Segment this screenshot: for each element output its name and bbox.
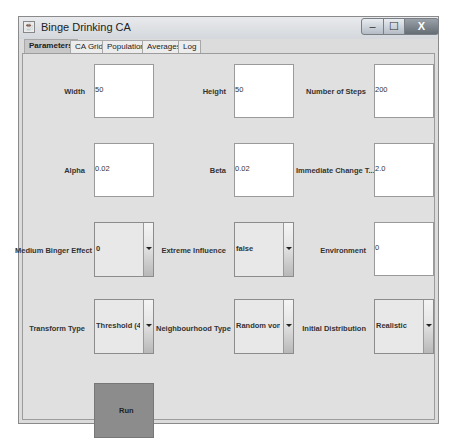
close-button[interactable]: X xyxy=(404,18,439,35)
environment-input[interactable]: 0 xyxy=(374,222,434,276)
beta-value: 0.02 xyxy=(235,164,250,173)
transform-type-label: Transform Type xyxy=(15,324,85,333)
environment-value: 0 xyxy=(375,243,379,252)
chevron-down-icon xyxy=(146,247,152,250)
tab-log[interactable]: Log xyxy=(178,40,201,53)
neighbourhood-type-combo[interactable]: Random von Ne... xyxy=(234,299,294,354)
chevron-down-icon xyxy=(426,324,432,327)
medium-binger-dropdown-button[interactable] xyxy=(143,223,153,276)
immediate-change-value: 2.0 xyxy=(375,164,385,173)
initial-distribution-combo[interactable]: Realistic xyxy=(374,299,434,354)
neighbourhood-type-dropdown-button[interactable] xyxy=(283,300,293,353)
neighbourhood-type-label: Neighbourhood Type xyxy=(156,324,226,333)
chevron-down-icon xyxy=(286,324,292,327)
steps-value: 200 xyxy=(375,85,388,94)
alpha-label: Alpha xyxy=(15,166,85,175)
extreme-influence-value: false xyxy=(236,244,280,253)
minimize-button[interactable]: ‒ xyxy=(361,18,384,35)
run-button-label: Run xyxy=(119,406,134,415)
initial-distribution-label: Initial Distribution xyxy=(296,324,366,333)
height-input[interactable]: 50 xyxy=(234,64,294,118)
height-value: 50 xyxy=(235,85,243,94)
transform-type-combo[interactable]: Threshold (4) xyxy=(94,299,154,354)
transform-type-dropdown-button[interactable] xyxy=(143,300,153,353)
environment-label: Environment xyxy=(296,246,366,255)
extreme-influence-combo[interactable]: false xyxy=(234,222,294,277)
maximize-button[interactable]: ☐ xyxy=(383,18,405,35)
neighbourhood-type-value: Random von Ne... xyxy=(236,321,280,330)
title-bar[interactable]: ☕ Binge Drinking CA ‒ ☐ X xyxy=(19,17,438,39)
steps-label: Number of Steps xyxy=(296,87,366,96)
app-window: ☕ Binge Drinking CA ‒ ☐ X Parameters CA … xyxy=(18,16,439,424)
transform-type-value: Threshold (4) xyxy=(96,321,140,330)
chevron-down-icon xyxy=(146,324,152,327)
run-button[interactable]: Run xyxy=(94,383,154,438)
parameters-panel: Width 50 Height 50 Number of Steps 200 A… xyxy=(22,53,435,420)
beta-label: Beta xyxy=(156,166,226,175)
initial-distribution-dropdown-button[interactable] xyxy=(423,300,433,353)
alpha-value: 0.02 xyxy=(95,164,110,173)
alpha-input[interactable]: 0.02 xyxy=(94,143,154,197)
width-label: Width xyxy=(15,87,85,96)
steps-input[interactable]: 200 xyxy=(374,64,434,118)
beta-input[interactable]: 0.02 xyxy=(234,143,294,197)
height-label: Height xyxy=(156,87,226,96)
extreme-influence-dropdown-button[interactable] xyxy=(283,223,293,276)
width-value: 50 xyxy=(95,85,103,94)
width-input[interactable]: 50 xyxy=(94,64,154,118)
java-app-icon: ☕ xyxy=(23,21,35,33)
immediate-change-label: Immediate Change T... xyxy=(296,166,366,175)
medium-binger-label: Medium Binger Effect xyxy=(15,246,85,255)
window-title: Binge Drinking CA xyxy=(41,21,131,33)
medium-binger-value: 0 xyxy=(96,244,140,253)
chevron-down-icon xyxy=(286,247,292,250)
immediate-change-input[interactable]: 2.0 xyxy=(374,143,434,197)
initial-distribution-value: Realistic xyxy=(376,321,420,330)
medium-binger-combo[interactable]: 0 xyxy=(94,222,154,277)
extreme-influence-label: Extreme Influence xyxy=(156,246,226,255)
